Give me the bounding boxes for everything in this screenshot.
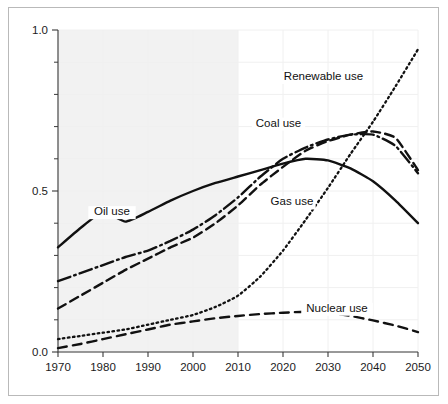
x-tick-label: 2000: [180, 361, 206, 373]
x-tick-label: 2050: [405, 361, 431, 373]
series-annotation-label: Gas use: [271, 195, 314, 207]
series-annotation-label: Nuclear use: [306, 302, 367, 314]
x-tick-label: 1990: [135, 361, 161, 373]
x-tick-label: 1970: [45, 361, 71, 373]
x-tick-label: 2030: [315, 361, 341, 373]
x-tick-label: 2020: [270, 361, 296, 373]
x-tick-label: 2010: [225, 361, 251, 373]
y-tick-label: 1.0: [32, 24, 48, 36]
energy-use-chart: 1970198019902000201020202030204020500.00…: [0, 0, 448, 404]
y-tick-label: 0.0: [32, 346, 48, 358]
x-tick-label: 1980: [90, 361, 116, 373]
y-tick-label: 0.5: [32, 185, 48, 197]
chart-canvas: 1970198019902000201020202030204020500.00…: [0, 0, 448, 404]
series-annotation-label: Coal use: [256, 117, 301, 129]
series-annotation-label: Oil use: [94, 205, 130, 217]
x-tick-label: 2040: [360, 361, 386, 373]
series-annotation-label: Renewable use: [284, 70, 363, 82]
